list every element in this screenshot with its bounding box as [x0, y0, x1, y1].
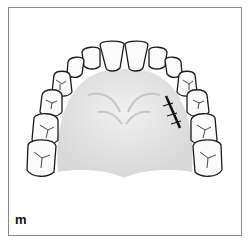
maxillary-arch-illustration	[0, 0, 249, 247]
panel-label: m	[15, 212, 27, 227]
